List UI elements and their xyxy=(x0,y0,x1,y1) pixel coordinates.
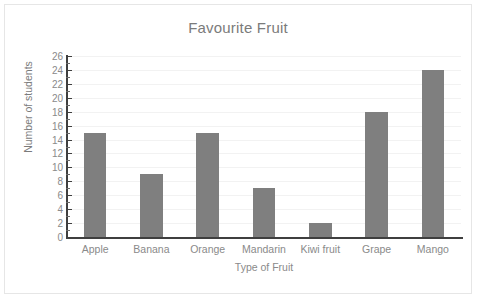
y-axis-major-tick xyxy=(66,237,72,238)
x-axis-tick-label: Grape xyxy=(362,243,391,255)
y-axis-major-tick xyxy=(66,223,72,224)
y-axis-tick-label: 10 xyxy=(23,162,63,173)
y-axis-minor-tick xyxy=(66,174,70,175)
y-axis-tick-label: 0 xyxy=(23,232,63,243)
y-axis-minor-tick xyxy=(66,230,70,231)
gridline xyxy=(67,153,461,154)
gridline xyxy=(67,56,461,57)
y-axis-tick-label: 24 xyxy=(23,64,63,75)
gridline xyxy=(67,167,461,168)
y-axis-minor-tick xyxy=(66,202,70,203)
x-axis-tick-label: Kiwi fruit xyxy=(300,243,340,255)
y-axis-tick-label: 26 xyxy=(23,51,63,62)
gridline xyxy=(67,140,461,141)
x-axis-line xyxy=(66,237,463,239)
gridline xyxy=(67,98,461,99)
y-axis-major-tick xyxy=(66,56,72,57)
gridline xyxy=(67,181,461,182)
y-axis-minor-tick xyxy=(66,188,70,189)
x-axis-tick-label: Mango xyxy=(417,243,449,255)
x-axis-tick-label: Mandarin xyxy=(242,243,286,255)
bar-apple[interactable] xyxy=(84,133,107,237)
bar-banana[interactable] xyxy=(140,174,163,237)
y-axis-major-tick xyxy=(66,195,72,196)
chart-title: Favourite Fruit xyxy=(5,19,471,36)
gridline xyxy=(67,126,461,127)
bar-mango[interactable] xyxy=(422,70,445,237)
y-axis-major-tick xyxy=(66,98,72,99)
chart-container: Favourite Fruit Number of students 02468… xyxy=(4,4,472,294)
y-axis-tick-label: 20 xyxy=(23,92,63,103)
y-axis-minor-tick xyxy=(66,133,70,134)
y-axis-major-tick xyxy=(66,209,72,210)
y-axis-tick-label: 12 xyxy=(23,148,63,159)
y-axis-major-tick xyxy=(66,167,72,168)
x-axis-tick-label: Apple xyxy=(82,243,109,255)
y-axis-minor-tick xyxy=(66,77,70,78)
y-axis-major-tick xyxy=(66,140,72,141)
y-axis-minor-tick xyxy=(66,147,70,148)
bar-grape[interactable] xyxy=(365,112,388,237)
y-axis-tick-label: 14 xyxy=(23,134,63,145)
bar-mandarin[interactable] xyxy=(253,188,276,237)
y-axis-minor-tick xyxy=(66,63,70,64)
y-axis-major-tick xyxy=(66,126,72,127)
x-axis-tick-label: Orange xyxy=(190,243,225,255)
gridline xyxy=(67,112,461,113)
bar-kiwi-fruit[interactable] xyxy=(309,223,332,237)
y-axis-tick-labels: 02468101214161820222426 xyxy=(23,56,63,237)
y-axis-minor-tick xyxy=(66,160,70,161)
x-axis-tick-label: Banana xyxy=(133,243,169,255)
gridline xyxy=(67,84,461,85)
y-axis-minor-tick xyxy=(66,119,70,120)
y-axis-tick-label: 2 xyxy=(23,218,63,229)
y-axis-tick-label: 18 xyxy=(23,106,63,117)
y-axis-major-tick xyxy=(66,181,72,182)
y-axis-major-tick xyxy=(66,112,72,113)
y-axis-tick-label: 8 xyxy=(23,176,63,187)
gridline xyxy=(67,70,461,71)
y-axis-tick-label: 6 xyxy=(23,190,63,201)
y-axis-tick-label: 16 xyxy=(23,120,63,131)
plot-area xyxy=(67,56,461,237)
y-axis-major-tick xyxy=(66,153,72,154)
y-axis-minor-tick xyxy=(66,91,70,92)
y-axis-tick-label: 4 xyxy=(23,204,63,215)
y-axis-minor-tick xyxy=(66,216,70,217)
x-axis-tick-labels: AppleBananaOrangeMandarinKiwi fruitGrape… xyxy=(67,243,461,259)
y-axis-major-tick xyxy=(66,70,72,71)
y-axis-major-tick xyxy=(66,84,72,85)
x-axis-title: Type of Fruit xyxy=(67,261,461,273)
y-axis-tick-label: 22 xyxy=(23,78,63,89)
bar-orange[interactable] xyxy=(196,133,219,237)
y-axis-minor-tick xyxy=(66,105,70,106)
